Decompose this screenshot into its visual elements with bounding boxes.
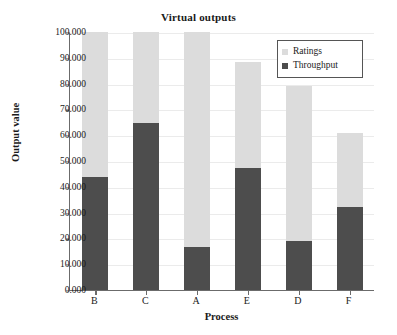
bar-segment-throughput <box>235 168 261 290</box>
gridline <box>70 110 374 111</box>
y-axis-tick-label: 50.000 <box>60 157 86 167</box>
x-axis-tick-label: B <box>91 295 98 306</box>
gridline <box>70 265 374 266</box>
bar-stack <box>184 32 210 290</box>
x-axis-tick-mark <box>299 290 300 295</box>
x-axis-title: Process <box>69 311 374 322</box>
bar-segment-throughput <box>133 123 159 290</box>
chart-legend: Ratings Throughput <box>277 40 363 78</box>
bar-stack <box>82 32 108 290</box>
bar-stack <box>337 133 363 290</box>
gridline <box>70 33 374 34</box>
x-axis-tick-mark <box>197 290 198 295</box>
x-axis-tick-mark <box>248 290 249 295</box>
y-axis-tick-label: 20.000 <box>60 235 86 245</box>
bar-segment-ratings <box>133 32 159 123</box>
y-axis-title: Output value <box>10 103 21 162</box>
bar-stack <box>286 86 312 290</box>
bar-segment-ratings <box>235 62 261 168</box>
bar-segment-throughput <box>337 207 363 290</box>
y-axis-tick-label: 100.000 <box>55 28 86 38</box>
bar-segment-throughput <box>286 241 312 290</box>
bar-segment-ratings <box>337 133 363 207</box>
bar-segment-throughput <box>82 177 108 290</box>
y-axis-tick-label: 80.000 <box>60 80 86 90</box>
y-axis-tick-label: 90.000 <box>60 54 86 64</box>
x-axis-tick-mark <box>350 290 351 295</box>
legend-item-ratings: Ratings <box>282 45 357 59</box>
y-axis-tick-label: 40.000 <box>60 183 86 193</box>
gridline <box>70 85 374 86</box>
x-axis-tick-label: D <box>294 295 301 306</box>
y-axis-tick-label: 70.000 <box>60 106 86 116</box>
bar-stack <box>235 62 261 290</box>
gridline <box>70 188 374 189</box>
y-axis-tick-label: 30.000 <box>60 209 86 219</box>
legend-item-throughput: Throughput <box>282 59 357 73</box>
bar-segment-throughput <box>184 247 210 290</box>
legend-swatch-throughput <box>282 63 288 69</box>
legend-label-throughput: Throughput <box>293 61 338 71</box>
bar-segment-ratings <box>82 32 108 177</box>
y-axis-tick-label: 0.000 <box>65 286 86 296</box>
x-axis-tick-mark <box>146 290 147 295</box>
gridline <box>70 214 374 215</box>
bar-segment-ratings <box>286 86 312 241</box>
legend-swatch-ratings <box>282 49 288 55</box>
gridline <box>70 239 374 240</box>
chart-container: Virtual outputs Output value 0.00010.000… <box>0 0 397 335</box>
x-axis-tick-label: F <box>346 295 352 306</box>
x-axis-tick-label: E <box>244 295 250 306</box>
bar-segment-ratings <box>184 32 210 247</box>
gridline <box>70 136 374 137</box>
chart-title: Virtual outputs <box>0 11 397 23</box>
y-axis-tick-label: 60.000 <box>60 131 86 141</box>
legend-label-ratings: Ratings <box>293 47 322 57</box>
x-axis-tick-label: C <box>142 295 149 306</box>
gridline <box>70 162 374 163</box>
x-axis-tick-mark <box>95 290 96 295</box>
x-axis-tick-label: A <box>192 295 199 306</box>
bar-stack <box>133 32 159 290</box>
y-axis-tick-label: 10.000 <box>60 260 86 270</box>
